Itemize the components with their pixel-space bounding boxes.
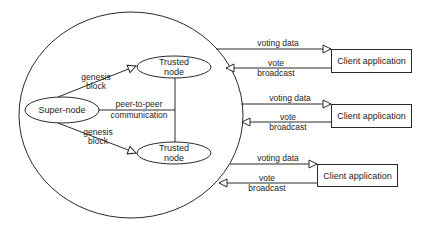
- vote-1-line1: vote: [246, 59, 306, 68]
- client-application-3: Client application: [317, 164, 398, 187]
- peer-label: peer-to-peer communication: [104, 100, 174, 120]
- genesis-label-top: genesis block: [76, 73, 116, 91]
- super-node-label: Super-node: [25, 105, 99, 115]
- vote-broadcast-label-2: vote broadcast: [258, 113, 318, 132]
- vote-3-line2: broadcast: [237, 184, 297, 193]
- vote-1-line2: broadcast: [246, 69, 306, 78]
- trusted-node-bottom-line1: Trusted: [137, 143, 211, 153]
- genesis-label-bottom: genesis block: [78, 128, 118, 146]
- peer-line1: peer-to-peer: [104, 100, 174, 109]
- vote-2-line1: vote: [258, 113, 318, 122]
- client-application-2: Client application: [331, 104, 412, 128]
- voting-data-label-3: voting data: [248, 154, 308, 163]
- genesis-bottom-line2: block: [78, 137, 118, 146]
- trusted-node-top-line1: Trusted: [137, 57, 211, 67]
- trusted-node-top-label: Trusted node: [137, 57, 211, 77]
- genesis-top-line2: block: [76, 82, 116, 91]
- vote-broadcast-label-3: vote broadcast: [237, 174, 297, 193]
- vote-3-line1: vote: [237, 174, 297, 183]
- trusted-node-bottom-label: Trusted node: [137, 143, 211, 163]
- trusted-node-bottom-line2: node: [137, 153, 211, 163]
- voting-data-label-2: voting data: [260, 94, 320, 103]
- client-application-1: Client application: [331, 49, 412, 73]
- vote-2-line2: broadcast: [258, 123, 318, 132]
- peer-line2: communication: [104, 111, 174, 120]
- vote-broadcast-label-1: vote broadcast: [246, 59, 306, 78]
- trusted-node-top-line2: node: [137, 67, 211, 77]
- voting-data-label-1: voting data: [248, 39, 308, 48]
